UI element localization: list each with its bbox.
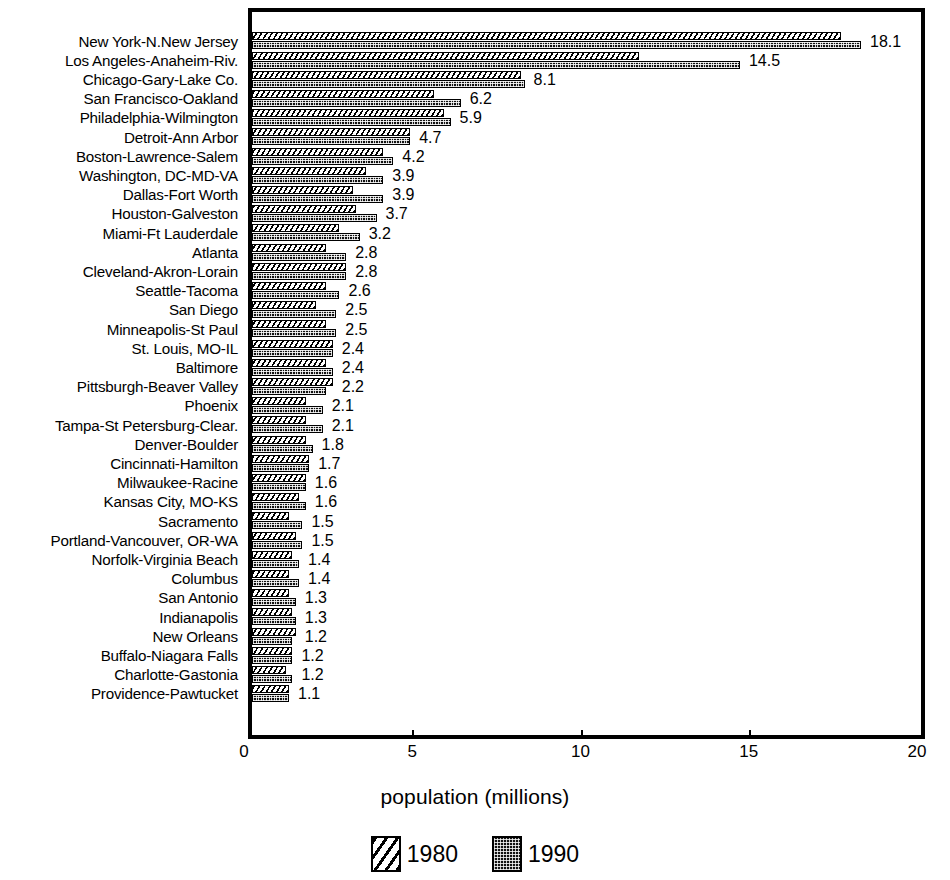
category-label: Indianapolis bbox=[159, 610, 238, 625]
x-axis-tick-label: 5 bbox=[408, 743, 417, 760]
category-label: Detroit-Ann Arbor bbox=[124, 130, 238, 145]
category-label: New Orleans bbox=[152, 629, 238, 644]
category-label: Los Angeles-Anaheim-Riv. bbox=[65, 53, 238, 68]
dotted-swatch-icon bbox=[492, 836, 522, 872]
bar-chart-figure: New York-N.New Jersey18.1Los Angeles-Ana… bbox=[0, 0, 950, 880]
category-label: Dallas-Fort Worth bbox=[123, 188, 238, 203]
plot-area-border bbox=[248, 8, 925, 739]
x-axis-tick-label: 10 bbox=[571, 743, 590, 760]
category-label: Buffalo-Niagara Falls bbox=[101, 648, 238, 663]
category-label: New York-N.New Jersey bbox=[78, 34, 238, 49]
chart-legend: 1980 1990 bbox=[0, 836, 950, 872]
category-label: Tampa-St Petersburg-Clear. bbox=[55, 418, 238, 433]
category-label: Milwaukee-Racine bbox=[117, 476, 238, 491]
category-label: Charlotte-Gastonia bbox=[114, 668, 238, 683]
legend-item-1990: 1990 bbox=[492, 836, 579, 872]
category-label: St. Louis, MO-IL bbox=[131, 341, 238, 356]
x-axis-tick bbox=[412, 730, 414, 739]
legend-item-1980: 1980 bbox=[371, 836, 458, 872]
category-label: Miami-Ft Lauderdale bbox=[103, 226, 238, 241]
category-label: Boston-Lawrence-Salem bbox=[76, 149, 238, 164]
category-label: Minneapolis-St Paul bbox=[107, 322, 238, 337]
category-label: Philadelphia-Wilmington bbox=[80, 111, 238, 126]
category-label: Denver-Boulder bbox=[134, 437, 238, 452]
category-label: Baltimore bbox=[176, 360, 238, 375]
x-axis-tick-label: 15 bbox=[739, 743, 758, 760]
legend-label-1990: 1990 bbox=[524, 843, 579, 866]
category-label: Phoenix bbox=[185, 399, 238, 414]
category-label: Chicago-Gary-Lake Co. bbox=[83, 72, 238, 87]
category-label: Norfolk-Virginia Beach bbox=[92, 552, 238, 567]
category-label: Atlanta bbox=[192, 245, 238, 260]
category-label: Kansas City, MO-KS bbox=[103, 495, 238, 510]
category-label: San Diego bbox=[169, 303, 238, 318]
category-label: Providence-Pawtucket bbox=[91, 687, 238, 702]
category-label: Sacramento bbox=[158, 514, 238, 529]
category-label: Portland-Vancouver, OR-WA bbox=[51, 533, 238, 548]
category-label: Columbus bbox=[171, 572, 238, 587]
category-label: San Francisco-Oakland bbox=[84, 92, 239, 107]
x-axis-tick bbox=[581, 730, 583, 739]
hatched-swatch-icon bbox=[371, 836, 401, 872]
legend-label-1980: 1980 bbox=[403, 843, 458, 866]
x-axis-tick bbox=[749, 730, 751, 739]
category-label: Washington, DC-MD-VA bbox=[79, 168, 238, 183]
category-label: Houston-Galveston bbox=[111, 207, 238, 222]
category-label: Seattle-Tacoma bbox=[135, 284, 238, 299]
x-axis: 05101520 bbox=[248, 739, 925, 740]
x-axis-tick-label: 20 bbox=[908, 743, 927, 760]
category-label: Cincinnati-Hamilton bbox=[110, 456, 238, 471]
x-axis-tick-label: 0 bbox=[239, 743, 248, 760]
x-axis-title: population (millions) bbox=[0, 785, 950, 809]
category-label: Pittsburgh-Beaver Valley bbox=[77, 380, 238, 395]
category-label: San Antonio bbox=[158, 591, 238, 606]
category-label: Cleveland-Akron-Lorain bbox=[83, 264, 238, 279]
